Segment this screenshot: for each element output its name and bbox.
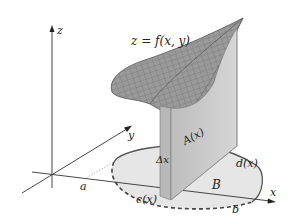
- label-a: a: [80, 180, 87, 193]
- surface-equation-label: z = f(x, y): [130, 34, 190, 48]
- y-axis-label: y: [127, 129, 135, 142]
- label-region-b: B: [211, 178, 221, 192]
- y-axis: [22, 127, 130, 193]
- diagram-svg: z y x z = f(x, y) a b c(x) d(x) B A(x) Δ…: [0, 0, 295, 224]
- label-c-of-x: c(x): [136, 193, 157, 206]
- label-delta-x: Δx: [155, 154, 169, 165]
- x-axis-label: x: [270, 186, 277, 199]
- z-axis-arrow-icon: [50, 25, 55, 32]
- iterated-integral-diagram: z y x z = f(x, y) a b c(x) d(x) B A(x) Δ…: [0, 0, 295, 224]
- z-axis-label: z: [56, 24, 63, 37]
- x-axis-arrow-icon: [268, 199, 277, 204]
- label-b: b: [232, 203, 239, 216]
- slab-front-face: [160, 106, 171, 200]
- label-d-of-x: d(x): [236, 157, 258, 170]
